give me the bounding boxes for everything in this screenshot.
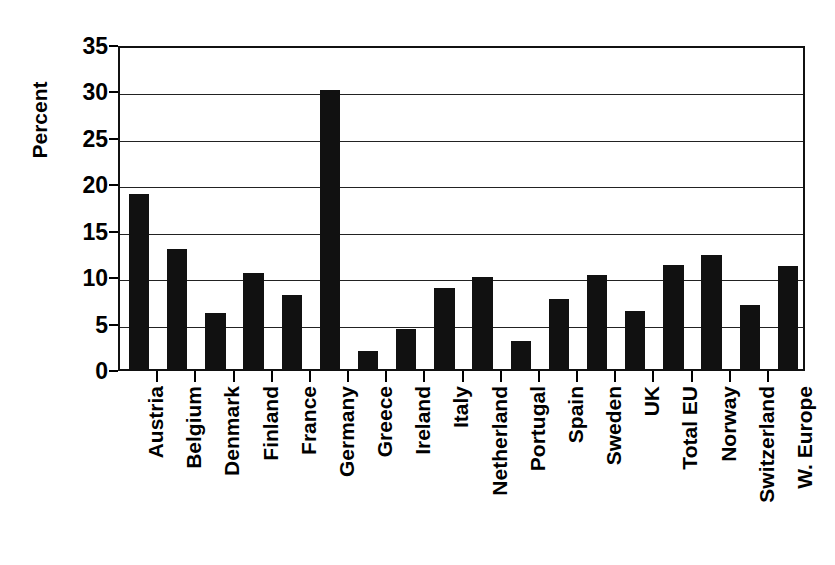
y-axis-tick-label: 5 xyxy=(95,313,108,336)
x-axis-category-label-text: Switzerland xyxy=(756,386,777,503)
x-axis-category-label-text: Belgium xyxy=(183,386,204,469)
x-axis-category-label-text: Austria xyxy=(145,386,166,458)
x-axis-category-label: Total EU xyxy=(679,302,700,386)
y-axis-tick-mark xyxy=(109,45,118,47)
y-axis-tick-label: 0 xyxy=(95,360,108,383)
y-axis-tick-label: 30 xyxy=(82,81,108,104)
y-axis-tick-mark xyxy=(109,91,118,93)
x-axis-category-label-text: Sweden xyxy=(603,386,624,465)
y-axis-tick-mark xyxy=(109,277,118,279)
x-axis-category-label-text: Ireland xyxy=(412,386,433,455)
x-axis-category-label-text: Denmark xyxy=(221,386,242,476)
x-axis-category-label: Belgium xyxy=(183,303,204,386)
x-axis-category-label: France xyxy=(298,317,319,386)
x-axis-category-label-text: Italy xyxy=(450,386,471,428)
x-axis-category-label: Norway xyxy=(718,310,739,386)
x-axis-category-label: Germany xyxy=(336,295,357,386)
y-axis-tick-label: 15 xyxy=(82,220,108,243)
y-axis-tick-mark xyxy=(109,138,118,140)
x-axis-category-label: Sweden xyxy=(603,307,624,386)
x-axis-category-label-text: Spain xyxy=(565,386,586,443)
y-axis-tick-label: 20 xyxy=(82,174,108,197)
y-axis-tick-label: 10 xyxy=(82,267,108,290)
x-axis-category-label: Austria xyxy=(145,314,166,386)
x-axis-category-label: Ireland xyxy=(412,317,433,386)
x-axis-category-labels: AustriaBelgiumDenmarkFinlandFranceGerman… xyxy=(118,386,805,561)
x-axis-category-label-text: France xyxy=(298,386,319,455)
x-axis-category-label: Finland xyxy=(260,311,281,386)
x-axis-category-label-text: Total EU xyxy=(679,386,700,470)
x-axis-category-label: Netherland xyxy=(489,276,510,386)
x-axis-category-label: Spain xyxy=(565,329,586,386)
y-axis-tick-mark xyxy=(109,370,118,372)
x-axis-category-label-text: UK xyxy=(641,386,662,416)
y-axis-tick-label: 25 xyxy=(82,127,108,150)
x-axis-category-label: Denmark xyxy=(221,296,242,386)
x-axis-category-label: W. Europe xyxy=(794,283,815,386)
x-axis-category-label-text: Greece xyxy=(374,386,395,457)
x-axis-category-label-text: Netherland xyxy=(489,386,510,496)
y-axis-tick-mark xyxy=(109,324,118,326)
x-axis-category-label-text: Finland xyxy=(260,386,281,461)
x-axis-category-label: Portugal xyxy=(527,301,548,386)
y-axis-tick-labels: 05101520253035 xyxy=(52,0,108,565)
y-axis-tick-mark xyxy=(109,184,118,186)
y-axis-tick-label: 35 xyxy=(82,35,108,58)
x-axis-category-label-text: W. Europe xyxy=(794,386,815,489)
x-axis-category-label: Italy xyxy=(450,344,471,386)
x-axis-category-label: Switzerland xyxy=(756,269,777,386)
chart-page: Percent 05101520253035 AustriaBelgiumDen… xyxy=(0,0,835,565)
x-axis-category-label: Greece xyxy=(374,315,395,386)
y-axis-tick-mark xyxy=(109,231,118,233)
x-axis-category-label-text: Norway xyxy=(718,386,739,462)
x-axis-category-label-text: Germany xyxy=(336,386,357,477)
x-axis-category-label-text: Portugal xyxy=(527,386,548,471)
x-axis-category-label: UK xyxy=(641,356,662,386)
